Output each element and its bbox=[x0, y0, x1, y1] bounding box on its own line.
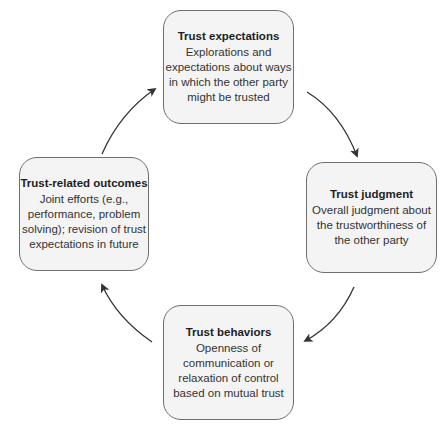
arrow-behaviors-to-outcomes-icon bbox=[102, 285, 152, 342]
node-description-line: expectations in future bbox=[22, 237, 146, 252]
arrow-expectations-to-judgment-icon bbox=[307, 92, 357, 156]
node-description: Joint efforts (e.g., performance, proble… bbox=[22, 192, 146, 252]
node-description-line: communication or bbox=[173, 356, 284, 371]
node-description-line: the trustworthiness of bbox=[312, 218, 431, 233]
node-trust-behaviors: Trust behaviors Openness of communicatio… bbox=[163, 305, 294, 420]
node-description-line: relaxation of control bbox=[173, 371, 284, 386]
arrow-outcomes-to-expectations-icon bbox=[102, 89, 155, 154]
node-title: Trust expectations bbox=[178, 29, 280, 44]
node-description: Explorations and expectations about ways… bbox=[166, 45, 292, 105]
node-description: Openness of communication or relaxation … bbox=[173, 341, 284, 401]
node-trust-judgment: Trust judgment Overall judgment about th… bbox=[306, 162, 437, 273]
node-title: Trust-related outcomes bbox=[20, 176, 147, 191]
node-description-line: might be trusted bbox=[166, 90, 292, 105]
node-description-line: Overall judgment about bbox=[312, 203, 431, 218]
node-description-line: performance, problem bbox=[22, 207, 146, 222]
node-description-line: the other party bbox=[312, 233, 431, 248]
node-description-line: in which the other party bbox=[166, 75, 292, 90]
node-trust-related-outcomes: Trust-related outcomes Joint efforts (e.… bbox=[19, 157, 149, 271]
node-description-line: Openness of bbox=[173, 341, 284, 356]
arrow-judgment-to-behaviors-icon bbox=[305, 287, 354, 341]
node-description-line: based on mutual trust bbox=[173, 386, 284, 401]
node-title: Trust behaviors bbox=[186, 325, 272, 340]
node-description-line: Joint efforts (e.g., bbox=[22, 192, 146, 207]
node-description-line: solving); revision of trust bbox=[22, 222, 146, 237]
node-title: Trust judgment bbox=[330, 187, 413, 202]
node-trust-expectations: Trust expectations Explorations and expe… bbox=[163, 10, 294, 124]
node-description-line: Explorations and bbox=[166, 45, 292, 60]
node-description: Overall judgment about the trustworthine… bbox=[312, 203, 431, 248]
node-description-line: expectations about ways bbox=[166, 60, 292, 75]
